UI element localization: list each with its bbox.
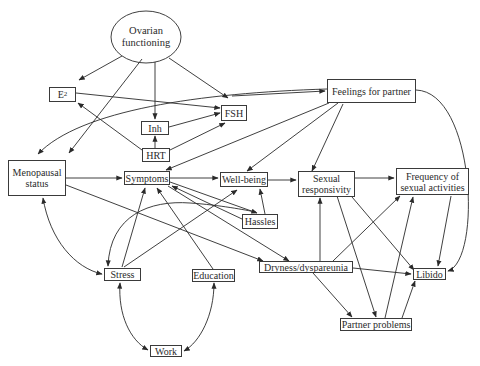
hrt-label: HRT — [146, 150, 165, 161]
ovarian-functioning-label: Ovarian functioning — [111, 25, 181, 49]
sexresp-label-line1: Sexual — [313, 173, 340, 184]
fsh-node: FSH — [221, 105, 247, 121]
frequency-node: Frequency of sexual activities — [396, 168, 469, 195]
edge-feelings-sexresp — [312, 104, 343, 171]
edge-education-work — [184, 283, 214, 351]
edge-hrt-fsh — [170, 123, 225, 150]
ovarian-label-line2: functioning — [111, 37, 181, 49]
partner-problems-label: Partner problems — [342, 319, 411, 330]
edge-ovarian-e2 — [79, 56, 122, 80]
feelings-for-partner-node: Feelings for partner — [327, 79, 416, 103]
edge-dryness-partner — [313, 273, 352, 317]
libido-node: Libido — [413, 268, 446, 280]
partner-problems-node: Partner problems — [340, 318, 412, 331]
symptoms-label: Symptoms — [126, 173, 169, 184]
education-label: Education — [193, 270, 234, 281]
fsh-label: FSH — [225, 108, 243, 119]
feelings-label: Feelings for partner — [332, 86, 411, 97]
inh-label: Inh — [148, 123, 161, 134]
sexual-responsivity-node: Sexual responsivity — [298, 171, 355, 197]
hassles-label: Hassles — [245, 216, 276, 227]
stress-label: Stress — [111, 269, 135, 280]
hassles-node: Hassles — [242, 214, 278, 229]
edge-stress-hassles — [108, 203, 256, 266]
inh-node: Inh — [141, 121, 169, 135]
edge-stress-work — [120, 283, 148, 350]
stress-node: Stress — [104, 268, 141, 281]
edge-sexresp-partner — [337, 196, 376, 317]
menopausal-label-line2: status — [26, 178, 49, 189]
edge-menopausal-stress — [43, 198, 102, 274]
edge-feelings-wellbeing — [247, 103, 338, 171]
libido-label: Libido — [416, 269, 443, 280]
work-label: Work — [155, 346, 177, 357]
ovarian-label-line1: Ovarian — [111, 25, 181, 37]
edge-e2-fsh — [76, 93, 220, 108]
edge-ovarian-menopausal — [69, 59, 142, 153]
edge-hassles-wellbeing — [260, 189, 265, 214]
edge-partner-libido — [402, 281, 415, 318]
hrt-node: HRT — [142, 148, 170, 162]
edge-feelings-symptoms — [166, 103, 329, 170]
wellbeing-label: Well-being — [222, 174, 266, 185]
edge-education-symptoms — [157, 188, 213, 269]
frequency-label-line1: Frequency of — [406, 171, 459, 182]
edge-inh-fsh — [169, 113, 220, 127]
education-node: Education — [192, 269, 235, 282]
dryness-node: Dryness/dyspareunia — [259, 261, 353, 273]
menopausal-status-node: Menopausal status — [8, 160, 66, 196]
wellbeing-node: Well-being — [220, 172, 268, 187]
edge-menopausal-dryness — [66, 185, 263, 261]
edge-frequency-libido — [438, 196, 451, 266]
work-node: Work — [150, 345, 182, 357]
e2-node: E2 — [49, 87, 76, 102]
dryness-label: Dryness/dyspareunia — [264, 262, 348, 273]
edge-ovarian-fsh — [169, 58, 228, 98]
frequency-label-line2: sexual activities — [400, 182, 464, 193]
edge-dryness-frequency — [333, 196, 400, 261]
menopausal-label-line1: Menopausal — [13, 167, 62, 178]
symptoms-node: Symptoms — [124, 171, 170, 185]
e2-subscript: 2 — [64, 89, 68, 100]
sexresp-label-line2: responsivity — [302, 184, 351, 195]
